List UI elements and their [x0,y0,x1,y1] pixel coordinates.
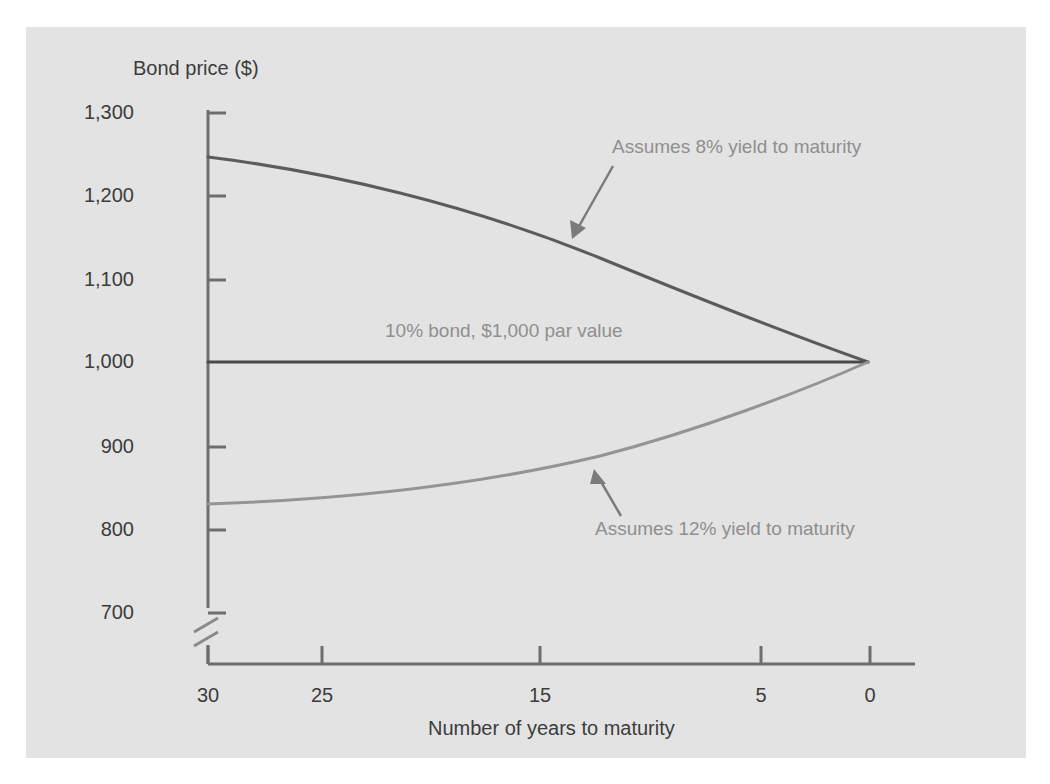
arrow-head-12-percent [590,469,606,484]
axis-break-mark [194,618,218,646]
figure-root: Bond price ($) 1,300 1,200 1,100 1,000 9… [0,0,1050,784]
plot-area [0,0,1050,784]
series-group [208,157,868,504]
arrow-head-8-percent [570,220,586,239]
arrow-line-8-percent [578,166,613,228]
series-line-12-percent [208,362,868,504]
arrow-line-12-percent [600,480,621,516]
series-line-8-percent [208,157,868,362]
annotation-arrows [570,166,621,516]
